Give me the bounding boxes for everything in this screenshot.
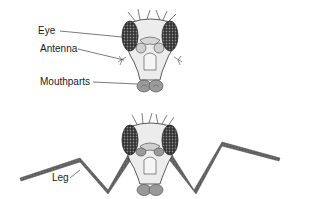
label-eye: Eye — [38, 26, 55, 36]
label-antenna: Antenna — [40, 44, 77, 54]
mouthparts-icon — [137, 80, 163, 92]
mutant-fly-head — [20, 113, 280, 196]
label-leg: Leg — [52, 173, 69, 183]
compound-eye-right — [162, 21, 178, 51]
label-mouthparts: Mouthparts — [40, 77, 90, 87]
compound-eye-left — [122, 21, 138, 51]
